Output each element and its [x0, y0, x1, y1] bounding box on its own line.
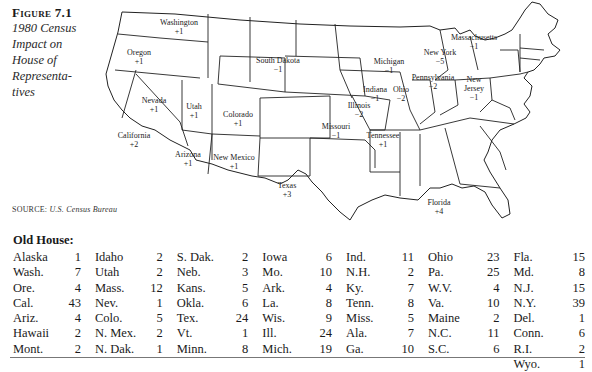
state-abbrev: Miss. — [346, 311, 386, 326]
old-house-row: Fla.15 — [513, 250, 585, 265]
map-label-florida: Florida+4 — [427, 198, 450, 216]
old-house-row: R.I.2 — [513, 342, 585, 357]
state-abbrev: Hawaii — [13, 326, 59, 341]
old-house-column: Iowa6Mo.10Ark.4La.8Wis.9Ill.24Mich.19 — [262, 250, 332, 372]
state-abbrev: Del. — [513, 311, 559, 326]
old-house-title: Old House: — [13, 233, 74, 248]
state-abbrev: Cal. — [13, 296, 59, 311]
seat-count: 2 — [469, 311, 499, 326]
map-label-nevada: Nevada+1 — [142, 96, 166, 114]
old-house-row: Wash.7 — [13, 265, 81, 280]
state-abbrev: Md. — [513, 265, 559, 280]
seat-count: 10 — [469, 296, 499, 311]
seat-count: 5 — [141, 311, 163, 326]
old-house-row: Wis.9 — [262, 311, 332, 326]
old-house-row: Mich.19 — [262, 342, 332, 357]
old-house-row: Miss.5 — [346, 311, 414, 326]
seat-count: 23 — [469, 250, 499, 265]
old-house-row: Conn.6 — [513, 326, 585, 341]
state-abbrev: Utah — [95, 265, 141, 280]
map-label-illinois: Illinois−2 — [348, 101, 371, 119]
seat-count: 5 — [386, 311, 414, 326]
seat-count: 6 — [559, 326, 585, 341]
old-house-row: Maine2 — [428, 311, 500, 326]
state-abbrev: Conn. — [513, 326, 559, 341]
old-house-row: Alaska1 — [13, 250, 81, 265]
map-label-washington: Washington+1 — [160, 18, 198, 36]
state-abbrev: N.H. — [346, 265, 386, 280]
old-house-row: Vt.1 — [177, 326, 249, 341]
old-house-row: N.J.15 — [513, 281, 585, 296]
seat-count: 25 — [469, 265, 499, 280]
old-house-row: Ariz.4 — [13, 311, 81, 326]
state-abbrev: Colo. — [95, 311, 141, 326]
seat-count: 2 — [559, 342, 585, 357]
old-house-row: Va.10 — [428, 296, 500, 311]
seat-count: 11 — [469, 326, 499, 341]
old-house-column: Alaska1Wash.7Ore.4Cal.43Ariz.4Hawaii2Mon… — [13, 250, 81, 372]
seat-count: 1 — [559, 357, 585, 372]
state-abbrev: Iowa — [262, 250, 302, 265]
seat-count: 10 — [386, 342, 414, 357]
state-abbrev: Ark. — [262, 281, 302, 296]
seat-count: 7 — [59, 265, 81, 280]
old-house-row: Minn.8 — [177, 342, 249, 357]
seat-count: 24 — [302, 326, 332, 341]
seat-count: 2 — [386, 265, 414, 280]
old-house-row: Pa.25 — [428, 265, 500, 280]
map-label-new-mexico: New Mexico+1 — [213, 153, 255, 171]
seat-count: 4 — [59, 311, 81, 326]
seat-count: 5 — [226, 281, 248, 296]
state-abbrev: Wis. — [262, 311, 302, 326]
figure-title-line: 1980 Census — [12, 20, 112, 36]
old-house-row: N.Y.39 — [513, 296, 585, 311]
old-house-column: S. Dak.2Neb.3Kans.5Okla.6Tex.24Vt.1Minn.… — [177, 250, 249, 372]
old-house-table: Alaska1Wash.7Ore.4Cal.43Ariz.4Hawaii2Mon… — [13, 250, 585, 372]
figure-title: 1980 Census Impact on House of Represent… — [12, 20, 112, 100]
seat-count: 15 — [559, 250, 585, 265]
seat-count: 3 — [226, 265, 248, 280]
seat-count: 10 — [302, 265, 332, 280]
map-label-arizona: Arizona+1 — [175, 150, 201, 168]
seat-count: 39 — [559, 296, 585, 311]
old-house-row: N. Mex.2 — [95, 326, 163, 341]
state-abbrev: Mont. — [13, 342, 59, 357]
state-abbrev: Ind. — [346, 250, 386, 265]
old-house-row: Mo.10 — [262, 265, 332, 280]
seat-count: 1 — [226, 326, 248, 341]
map-label-colorado: Colorado+1 — [223, 110, 253, 128]
state-abbrev: S.C. — [428, 342, 470, 357]
old-house-row: Utah2 — [95, 265, 163, 280]
state-abbrev: Va. — [428, 296, 470, 311]
state-abbrev: N.C. — [428, 326, 470, 341]
seat-count: 15 — [559, 281, 585, 296]
seat-count: 2 — [59, 326, 81, 341]
figure-title-line: Impact on — [12, 36, 112, 52]
old-house-column: Ohio23Pa.25W.V.4Va.10Maine2N.C.11S.C.6 — [428, 250, 500, 372]
map-label-massachusetts: Massachusetts−1 — [451, 33, 497, 51]
map-label-ohio: Ohio−2 — [393, 85, 409, 103]
state-abbrev: N.Y. — [513, 296, 559, 311]
map-label-texas: Texas+3 — [278, 181, 297, 199]
old-house-row: Tex.24 — [177, 311, 249, 326]
old-house-row: Ind.11 — [346, 250, 414, 265]
seat-count: 2 — [141, 265, 163, 280]
map-label-south-dakota: South Dakota−1 — [256, 56, 300, 74]
old-house-row: La.8 — [262, 296, 332, 311]
old-house-row: Tenn.8 — [346, 296, 414, 311]
old-house-row: Del.1 — [513, 311, 585, 326]
state-abbrev: Neb. — [177, 265, 227, 280]
seat-count: 4 — [302, 281, 332, 296]
figure-caption: Figure 7.1 1980 Census Impact on House o… — [12, 5, 112, 100]
seat-count: 2 — [226, 250, 248, 265]
seat-count: 1 — [59, 250, 81, 265]
old-house-row: Ore.4 — [13, 281, 81, 296]
state-abbrev: Pa. — [428, 265, 470, 280]
state-abbrev: Tex. — [177, 311, 227, 326]
state-abbrev: Maine — [428, 311, 470, 326]
state-abbrev: Tenn. — [346, 296, 386, 311]
seat-count: 43 — [59, 296, 81, 311]
old-house-row: Okla.6 — [177, 296, 249, 311]
bottom-rule — [10, 357, 585, 358]
old-house-row: W.V.4 — [428, 281, 500, 296]
